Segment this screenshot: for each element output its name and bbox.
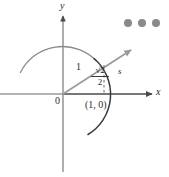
fraction-numerator: √2 xyxy=(89,66,111,75)
y-axis-label: y xyxy=(60,1,64,11)
dot-2-icon xyxy=(138,19,146,27)
unit-point-label: (1, 0) xyxy=(85,100,107,110)
fraction-denominator: 2 xyxy=(89,78,111,87)
ellipsis-dots xyxy=(124,19,160,27)
x-axis-label: x xyxy=(156,87,160,97)
unit-circle-arc xyxy=(20,47,96,73)
unit-circle-figure: y x 0 1 s (1, 0) √2 2 xyxy=(0,0,169,177)
sqrt-two-over-two-label: √2 2 xyxy=(89,66,111,87)
origin-label: 0 xyxy=(55,96,60,106)
arc-length-label: s xyxy=(118,67,122,76)
dot-1-icon xyxy=(124,19,132,27)
radius-length-label: 1 xyxy=(76,62,81,72)
dot-3-icon xyxy=(152,19,160,27)
